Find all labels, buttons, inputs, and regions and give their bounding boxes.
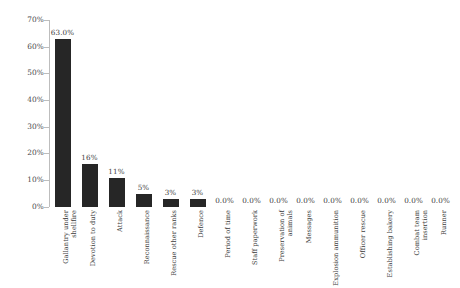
bar-group[interactable]: 3% <box>157 20 184 207</box>
bar-value-label: 11% <box>108 168 124 176</box>
bar-value-label: 0.0% <box>242 197 261 205</box>
x-axis-category-label: Messages <box>292 209 319 287</box>
bar-value-label: 0.0% <box>377 197 396 205</box>
bar-value-label: 0.0% <box>350 197 369 205</box>
bar-value-label: 3% <box>165 189 177 197</box>
x-axis-category-label: Defence <box>184 209 211 287</box>
x-axis-category-text: Messages <box>306 210 314 286</box>
bar-value-label: 0.0% <box>296 197 315 205</box>
x-axis-category-text: Reconnaissance <box>144 210 152 286</box>
x-axis-category-label: Devotion to duty <box>76 209 103 287</box>
x-axis-category-label: Period of time <box>211 209 238 287</box>
x-axis-category-label: Rescue other ranks <box>157 209 184 287</box>
bar[interactable] <box>190 199 206 207</box>
x-axis-category-text: Defence <box>198 210 206 286</box>
x-axis-category-label: Explosion ammunition <box>319 209 346 287</box>
bar-group[interactable]: 0.0% <box>319 20 346 207</box>
y-axis-tick-labels: 70%60%50%40%30%20%10%0% <box>8 14 44 212</box>
bar-group[interactable]: 0.0% <box>400 20 427 207</box>
y-axis-tick-label: 70% <box>8 16 44 24</box>
bar-value-label: 0.0% <box>323 197 342 205</box>
y-axis-tick-label: 40% <box>8 96 44 104</box>
x-axis-category-text: Rescue other ranks <box>171 210 179 286</box>
y-axis-tick-label: 10% <box>8 176 44 184</box>
bar[interactable] <box>82 164 98 207</box>
x-axis-category-label: Preservation of animals <box>265 209 292 287</box>
x-axis-category-label: Staff paperwork <box>238 209 265 287</box>
x-axis-category-text: Runner <box>441 210 449 286</box>
x-axis-category-text: Explosion ammunition <box>333 210 341 286</box>
plot-area: 63.0%16%11%5%3%3%0.0%0.0%0.0%0.0%0.0%0.0… <box>49 20 453 207</box>
bar[interactable] <box>55 39 71 207</box>
bar-value-label: 16% <box>81 154 97 162</box>
x-axis-category-label: Officer rescue <box>346 209 373 287</box>
bar-group[interactable]: 0.0% <box>346 20 373 207</box>
bar-group[interactable]: 63.0% <box>49 20 76 207</box>
x-axis-category-text: Officer rescue <box>360 210 368 286</box>
x-axis-category-text: Devotion to duty <box>90 210 98 286</box>
y-axis-tick-label: 30% <box>8 123 44 131</box>
x-axis-category-label: Gallantry under shellfire <box>49 209 76 287</box>
x-axis-category-text: Establishing bakery <box>387 210 395 286</box>
y-axis-tick-label: 0% <box>8 203 44 211</box>
bar-value-label: 0.0% <box>269 197 288 205</box>
y-axis-tick-label: 20% <box>8 149 44 157</box>
x-axis-category-text: Attack <box>117 210 125 286</box>
bar-value-label: 0.0% <box>404 197 423 205</box>
bar[interactable] <box>163 199 179 207</box>
x-axis-category-label: Runner <box>427 209 454 287</box>
bar-group[interactable]: 0.0% <box>211 20 238 207</box>
x-axis-category-label: Reconnaissance <box>130 209 157 287</box>
bar-group[interactable]: 0.0% <box>265 20 292 207</box>
bar-value-label: 63.0% <box>51 29 74 37</box>
bar-group[interactable]: 11% <box>103 20 130 207</box>
y-axis-tick-label: 60% <box>8 43 44 51</box>
x-axis-category-text: Period of time <box>225 210 233 286</box>
bar-value-label: 5% <box>138 184 150 192</box>
bar-value-label: 0.0% <box>431 197 450 205</box>
bar-chart: 70%60%50%40%30%20%10%0% 63.0%16%11%5%3%3… <box>0 0 460 288</box>
x-axis-category-label: Attack <box>103 209 130 287</box>
bar-group[interactable]: 16% <box>76 20 103 207</box>
y-axis-tick-label: 50% <box>8 69 44 77</box>
bar-group[interactable]: 0.0% <box>427 20 454 207</box>
x-axis-category-labels: Gallantry under shellfireDevotion to dut… <box>49 209 453 287</box>
bar-value-label: 3% <box>192 189 204 197</box>
bar-value-label: 0.0% <box>215 197 234 205</box>
x-axis-category-text: Staff paperwork <box>252 210 260 286</box>
bar[interactable] <box>136 194 152 207</box>
bar-group[interactable]: 0.0% <box>238 20 265 207</box>
x-axis-category-label: Combat team insertion <box>400 209 427 287</box>
bar[interactable] <box>109 178 125 207</box>
x-axis-category-label: Establishing bakery <box>373 209 400 287</box>
bar-group[interactable]: 3% <box>184 20 211 207</box>
bar-group[interactable]: 0.0% <box>292 20 319 207</box>
bar-group[interactable]: 0.0% <box>373 20 400 207</box>
bar-group[interactable]: 5% <box>130 20 157 207</box>
